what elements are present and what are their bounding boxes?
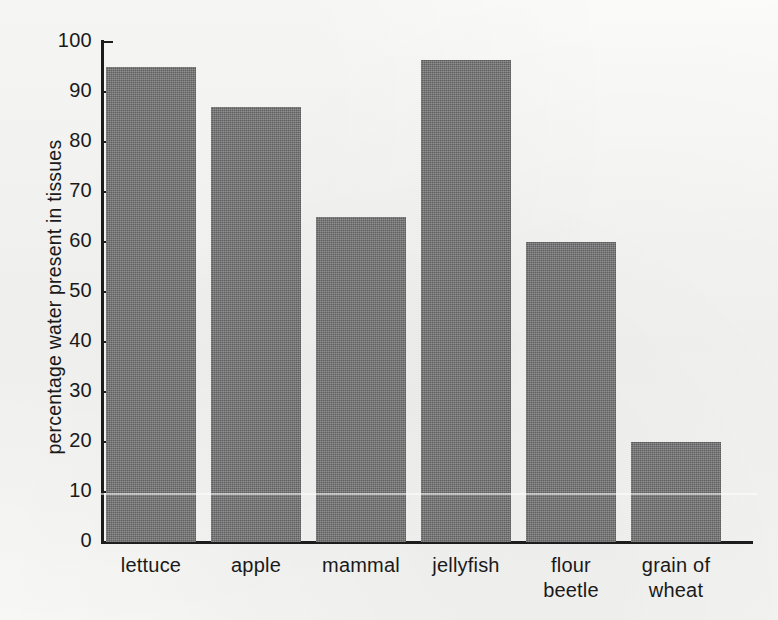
x-axis-label-line: apple: [197, 553, 315, 578]
x-axis-label: jellyfish: [407, 553, 525, 578]
x-axis-label-line: wheat: [617, 578, 735, 603]
x-axis-label: grain ofwheat: [617, 553, 735, 603]
bar: [631, 442, 721, 542]
x-axis-label-line: flour: [512, 553, 630, 578]
y-axis-title: percentage water present in tissues: [43, 145, 66, 455]
x-axis-label-line: mammal: [302, 553, 420, 578]
bar: [421, 60, 511, 543]
y-axis-tick-label: 10: [50, 479, 92, 502]
x-axis-label: lettuce: [92, 553, 210, 578]
y-axis-tick-label: 90: [50, 79, 92, 102]
bar: [526, 242, 616, 542]
x-axis-label: flourbeetle: [512, 553, 630, 603]
x-axis-label-line: beetle: [512, 578, 630, 603]
y-axis-tick: [104, 41, 113, 43]
y-axis-tick-label: 100: [50, 29, 92, 52]
y-axis-tick-label: 0: [50, 529, 92, 552]
x-axis-label-line: lettuce: [92, 553, 210, 578]
x-axis-label-line: grain of: [617, 553, 735, 578]
bar-chart-figure: 0102030405060708090100 lettuceapplemamma…: [0, 0, 778, 620]
x-axis-label: mammal: [302, 553, 420, 578]
bar: [316, 217, 406, 542]
bar: [106, 67, 196, 542]
bar: [211, 107, 301, 542]
x-axis-label-line: jellyfish: [407, 553, 525, 578]
x-axis-label: apple: [197, 553, 315, 578]
